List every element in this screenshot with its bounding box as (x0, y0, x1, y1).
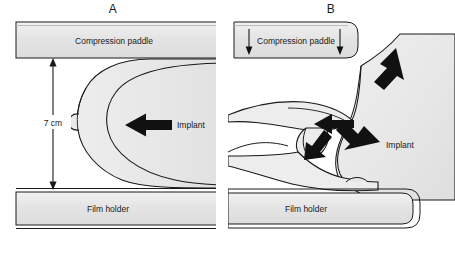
measurement-arrow-7cm: 7 cm (36, 58, 71, 190)
panel-a: A (0, 0, 228, 261)
film-holder-label-a: Film holder (87, 204, 129, 214)
implant-label-a: Implant (177, 120, 206, 130)
implant-label-b: Implant (386, 140, 415, 150)
panel-b-drawing: Compression paddle (228, 0, 455, 261)
panel-b: B (228, 0, 455, 261)
figure-root: A (0, 0, 455, 261)
compression-paddle-label-b: Compression paddle (257, 36, 335, 46)
measurement-label: 7 cm (44, 118, 62, 128)
compression-paddle-label-a: Compression paddle (75, 36, 153, 46)
panel-a-drawing: 7 cm Implant Film holder Compression pad… (0, 0, 228, 261)
film-holder-label-b: Film holder (285, 204, 327, 214)
